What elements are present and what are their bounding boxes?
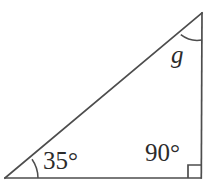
angle-arc-g	[181, 35, 202, 41]
angle-label-g: g	[171, 42, 184, 67]
triangle-diagram: 35° 90° g	[0, 0, 216, 193]
triangle-drawing	[0, 0, 216, 193]
right-angle-square-marker	[188, 165, 201, 178]
angle-arc-35	[32, 159, 38, 178]
triangle-side-vertical	[201, 13, 202, 178]
angle-label-35: 35°	[43, 148, 78, 173]
angle-label-90: 90°	[145, 140, 180, 165]
